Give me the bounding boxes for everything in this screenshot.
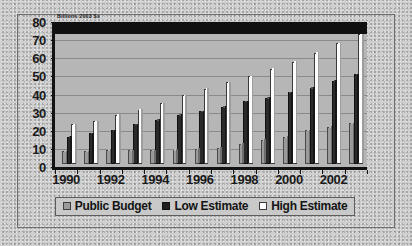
bar-group-1992 [102, 22, 124, 164]
bar-low-estimate-1994 [155, 120, 160, 164]
x-tickmark [367, 170, 368, 174]
bar-public-budget-2002 [327, 127, 332, 164]
bar-low-estimate-1992 [111, 130, 116, 164]
bar-side-face [242, 143, 244, 163]
bar-side-face [331, 126, 333, 163]
legend-swatch-low-estimate [162, 202, 170, 210]
bar-side-face [163, 103, 165, 163]
bar-high-estimate-1991 [93, 121, 98, 164]
bar-side-face [114, 130, 116, 163]
bar-side-face [357, 74, 359, 163]
bar-side-face [269, 97, 271, 163]
x-axis-tick-2000: 2000 [275, 173, 303, 186]
bar-group-1998 [235, 22, 257, 164]
bar-side-face [137, 124, 139, 163]
y-tickmark [51, 131, 55, 132]
bar-side-face [362, 34, 364, 163]
bar-low-estimate-2003 [354, 74, 359, 164]
y-axis-tick-60: 60 [32, 52, 46, 65]
bar-side-face [287, 136, 289, 163]
x-axis-tick-1998: 1998 [231, 173, 259, 186]
bar-side-face [296, 61, 298, 163]
bar-side-face [335, 80, 337, 163]
bar-groups [58, 22, 367, 164]
y-axis-tick-30: 30 [32, 106, 46, 119]
legend-item-high-estimate: High Estimate [259, 200, 347, 212]
x-axis-tick-labels: 1990199219941996199820002002 [52, 173, 367, 193]
bar-high-estimate-1994 [160, 103, 165, 164]
bar-group-2002 [323, 22, 345, 164]
bar-side-face [225, 106, 227, 163]
bar-low-estimate-1995 [177, 115, 182, 164]
bar-side-face [110, 149, 112, 163]
x-axis-tick-1994: 1994 [141, 173, 169, 186]
y-axis-tick-10: 10 [32, 142, 46, 155]
bar-public-budget-1997 [217, 148, 222, 164]
legend-label-low-estimate: Low Estimate [174, 200, 248, 212]
x-axis-tick-1992: 1992 [97, 173, 125, 186]
y-tickmark [51, 95, 55, 96]
bar-low-estimate-2000 [288, 92, 293, 164]
bar-side-face [207, 88, 209, 163]
bar-high-estimate-1990 [71, 124, 76, 164]
y-axis-title: Billions 2003 $s [57, 13, 100, 19]
plot-wrapper: 80706050403020100 Billions 2003 $s [52, 22, 367, 170]
plot-area [52, 22, 367, 170]
bar-low-estimate-2002 [332, 81, 337, 164]
bar-side-face [97, 121, 99, 163]
bar-low-estimate-1998 [243, 101, 248, 164]
bar-public-budget-2000 [283, 137, 288, 164]
y-axis-tick-0: 0 [39, 161, 46, 174]
bar-high-estimate-1997 [226, 82, 231, 164]
y-tickmark [51, 167, 55, 168]
bar-side-face [159, 119, 161, 163]
y-tickmark [51, 58, 55, 59]
y-axis-tick-70: 70 [32, 34, 46, 47]
bar-high-estimate-1993 [138, 110, 143, 164]
bar-side-face [88, 151, 90, 163]
bar-side-face [70, 136, 72, 163]
bar-side-face [353, 123, 355, 163]
y-axis-tick-40: 40 [32, 88, 46, 101]
bar-high-estimate-2003 [358, 34, 363, 164]
bar-group-1999 [257, 22, 279, 164]
bar-group-2000 [279, 22, 301, 164]
bar-public-budget-1992 [106, 150, 111, 165]
legend-label-public-budget: Public Budget [75, 200, 152, 212]
bar-group-2003 [345, 22, 367, 164]
bar-high-estimate-1996 [204, 89, 209, 164]
chart-legend: Public Budget Low Estimate High Estimate [55, 197, 355, 216]
bar-low-estimate-1993 [133, 124, 138, 164]
bar-public-budget-2001 [305, 130, 310, 164]
bar-side-face [185, 95, 187, 163]
bar-side-face [141, 109, 143, 163]
legend-item-low-estimate: Low Estimate [162, 200, 248, 212]
bar-public-budget-2003 [349, 123, 354, 164]
bar-low-estimate-1997 [221, 107, 226, 164]
bar-side-face [198, 148, 200, 163]
bar-side-face [119, 114, 121, 163]
bar-group-1994 [146, 22, 168, 164]
bar-public-budget-1990 [62, 151, 67, 164]
bar-public-budget-1996 [195, 149, 200, 164]
bar-side-face [220, 147, 222, 163]
bar-group-2001 [301, 22, 323, 164]
y-axis-tick-labels: 80706050403020100 [18, 22, 49, 170]
bar-low-estimate-1999 [265, 98, 270, 164]
bar-high-estimate-2000 [292, 62, 297, 164]
bar-low-estimate-2001 [310, 88, 315, 164]
bar-side-face [132, 150, 134, 163]
bar-side-face [181, 114, 183, 163]
bar-low-estimate-1991 [89, 133, 94, 164]
bar-side-face [252, 76, 254, 164]
bar-high-estimate-2002 [336, 43, 341, 164]
bar-side-face [274, 68, 276, 163]
y-tickmark [51, 76, 55, 77]
x-axis-tick-1996: 1996 [186, 173, 214, 186]
bar-side-face [247, 101, 249, 163]
bar-public-budget-1991 [84, 151, 89, 164]
bar-group-1996 [190, 22, 212, 164]
x-axis-tick-2002: 2002 [320, 173, 348, 186]
bar-public-budget-1995 [173, 150, 178, 165]
bar-group-1993 [124, 22, 146, 164]
